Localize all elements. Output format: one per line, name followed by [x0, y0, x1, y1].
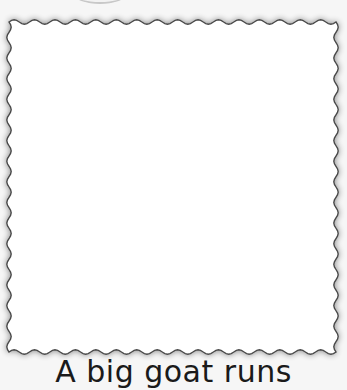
- sentence-caption: A big goat runs: [0, 354, 347, 390]
